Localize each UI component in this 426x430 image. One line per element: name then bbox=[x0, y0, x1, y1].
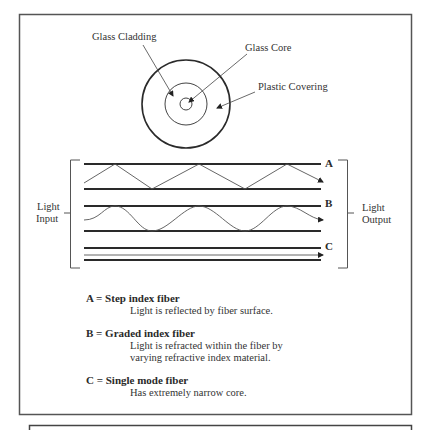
fiber-c: C bbox=[84, 240, 333, 260]
glass-cladding-circle bbox=[165, 83, 207, 125]
fiber-b: B bbox=[84, 197, 333, 231]
cladding-pointer bbox=[143, 45, 173, 96]
legend-b-line2: varying refractive index material. bbox=[130, 352, 271, 363]
light-output-line1: Light bbox=[362, 202, 385, 213]
cross-section: Glass Cladding Glass Core Plastic Coveri… bbox=[92, 31, 328, 148]
legend-b-line1: Light is refracted within the fiber by bbox=[130, 340, 284, 351]
label-glass-cladding: Glass Cladding bbox=[92, 31, 157, 42]
fiber-b-letter: B bbox=[325, 197, 333, 209]
plastic-covering-circle bbox=[142, 60, 230, 148]
next-frame bbox=[30, 426, 412, 430]
legend-c-heading: C = Single mode fiber bbox=[86, 374, 188, 386]
fiber-b-light-path bbox=[84, 206, 323, 231]
input-bracket bbox=[71, 160, 81, 268]
legend-a-heading: A = Step index fiber bbox=[86, 292, 180, 304]
legend-c-line1: Has extremely narrow core. bbox=[130, 387, 247, 398]
fiber-a-letter: A bbox=[325, 157, 333, 169]
legend: A = Step index fiber Light is reflected … bbox=[86, 292, 284, 398]
glass-core-circle bbox=[180, 98, 192, 110]
label-plastic-covering: Plastic Covering bbox=[258, 81, 328, 92]
output-bracket bbox=[338, 160, 348, 268]
fiber-c-letter: C bbox=[325, 240, 333, 252]
light-input-line2: Input bbox=[36, 213, 58, 224]
label-glass-core: Glass Core bbox=[245, 42, 292, 53]
fiber-diagram: Glass Cladding Glass Core Plastic Coveri… bbox=[0, 0, 426, 430]
legend-b-heading: B = Graded index fiber bbox=[86, 327, 195, 339]
fiber-a: A bbox=[84, 157, 333, 189]
light-output-line2: Output bbox=[362, 214, 391, 225]
legend-a-line1: Light is reflected by fiber surface. bbox=[130, 305, 273, 316]
light-input-line1: Light bbox=[37, 201, 60, 212]
fiber-a-light-path bbox=[84, 164, 323, 189]
covering-pointer bbox=[217, 92, 255, 108]
